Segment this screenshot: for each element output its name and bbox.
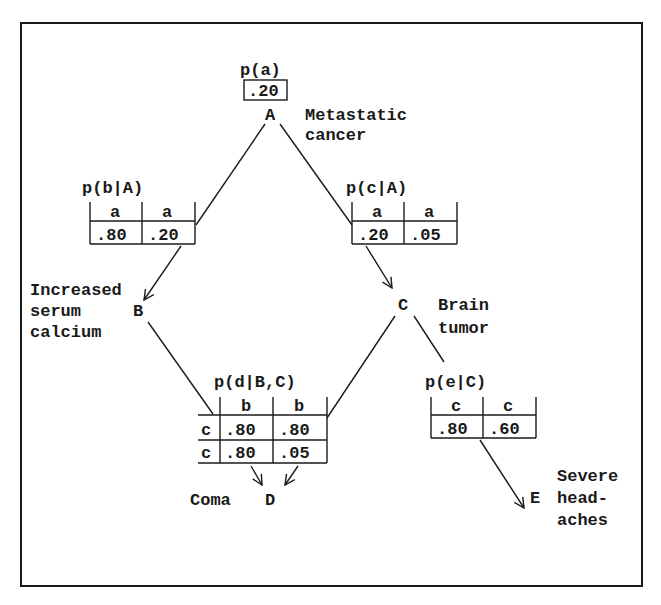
table-p-a: p(a) .20 [240,61,287,101]
node-label: calcium [30,323,101,342]
edge-a-to-c-arrow [366,246,392,288]
table-title: p(d|B,C) [214,373,296,392]
node-a: A Metastatic cancer [265,106,407,145]
table-header: a [110,203,120,222]
table-value: .80 [225,421,256,440]
table-p-c-given-a: p(c|A) a a .20 .05 [346,179,457,245]
table-header: a [372,203,382,222]
node-b: Increased serum calcium B [30,281,143,342]
node-label: head- [557,489,608,508]
table-row-header: c [201,444,211,463]
node-letter: B [133,302,143,321]
node-letter: D [265,491,275,510]
node-letter: E [530,489,540,508]
table-header: c [451,397,461,416]
node-label: Severe [557,467,618,486]
table-title: p(e|C) [425,373,486,392]
edge-c-to-e-arrow [480,440,524,508]
table-header: a [424,203,434,222]
edge-a-to-b-upper [196,124,265,225]
edge-c-to-d-upper [327,316,395,418]
node-label: tumor [438,319,489,338]
table-p-d-given-b-c: p(d|B,C) b b c c .80 .80 .80 .05 [198,373,327,463]
edge-b-to-d-arrow [251,466,262,485]
edge-c-to-d-arrow [285,466,298,485]
table-value: .20 [148,226,179,245]
table-value: .80 [437,420,468,439]
node-label: Increased [30,281,122,300]
node-label: Metastatic [305,106,407,125]
node-letter: C [398,296,408,315]
table-header: c [503,397,513,416]
table-col-header: b [241,397,251,416]
node-label: aches [557,511,608,530]
edge-b-to-d-upper [148,322,213,414]
node-letter: A [265,106,276,125]
table-title: p(b|A) [82,179,143,198]
node-e: Severe E head- aches [530,467,618,530]
table-value: .80 [279,421,310,440]
table-row-header: c [201,421,211,440]
node-d: Coma D [190,491,275,510]
node-label: serum [30,302,81,321]
table-value: .80 [96,226,127,245]
table-p-b-given-a: p(b|A) a a .80 .20 [82,179,195,245]
table-title: p(a) [240,61,281,80]
table-title: p(c|A) [346,179,407,198]
node-label: cancer [305,126,366,145]
table-value: .60 [489,420,520,439]
node-c: C Brain tumor [398,296,489,338]
bayesian-network-diagram: p(a) .20 A Metastatic cancer p(b|A) a a … [0,0,661,605]
table-value: .05 [279,444,310,463]
table-value: .20 [248,82,279,101]
table-p-e-given-c: p(e|C) c c .80 .60 [425,373,536,439]
table-col-header: b [294,397,304,416]
table-value: .80 [225,444,256,463]
node-label: Coma [190,491,231,510]
table-header: a [162,203,172,222]
edge-a-to-b-arrow [144,246,181,300]
table-value: .05 [410,226,441,245]
table-value: .20 [358,226,389,245]
node-label: Brain [438,296,489,315]
